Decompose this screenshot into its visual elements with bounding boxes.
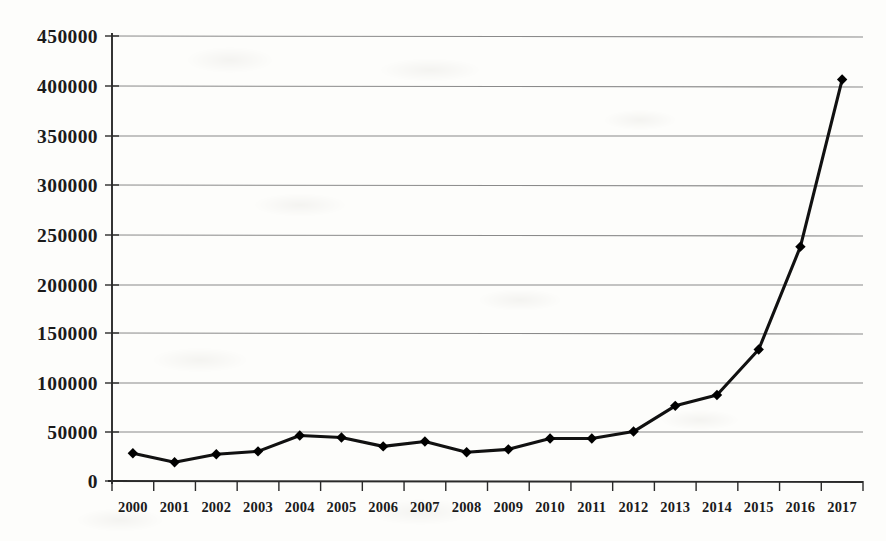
y-tick-label-150000: 150000 bbox=[37, 323, 98, 344]
y-tick-label-100000: 100000 bbox=[37, 373, 98, 394]
data-point-2008 bbox=[461, 447, 471, 457]
gridline-400000 bbox=[112, 86, 863, 87]
gridline-300000 bbox=[112, 185, 863, 186]
chart-page: 450000 400000 350000 300000 250000 20000… bbox=[0, 0, 886, 541]
data-point-2009 bbox=[503, 444, 513, 454]
y-tick-label-450000: 450000 bbox=[37, 26, 98, 47]
y-tick-label-350000: 350000 bbox=[37, 126, 98, 147]
data-point-2006 bbox=[378, 441, 388, 451]
x-tick-label-2008: 2008 bbox=[452, 499, 482, 515]
x-tick-label-2009: 2009 bbox=[493, 499, 523, 515]
x-tick-label-2004: 2004 bbox=[285, 499, 315, 515]
y-tick-label-0: 0 bbox=[88, 471, 98, 492]
x-tick-label-2000: 2000 bbox=[118, 499, 148, 515]
data-point-2017 bbox=[837, 74, 847, 84]
x-tick-label-2011: 2011 bbox=[577, 499, 606, 515]
y-tick-label-200000: 200000 bbox=[37, 275, 98, 296]
x-axis-tick-labels: 2000200120022003200420052006200720082009… bbox=[118, 499, 857, 515]
x-tick-label-2015: 2015 bbox=[744, 499, 774, 515]
x-tick-label-2016: 2016 bbox=[786, 499, 816, 515]
y-tick-label-300000: 300000 bbox=[37, 175, 98, 196]
data-point-2011 bbox=[587, 433, 597, 443]
x-tick-label-2007: 2007 bbox=[410, 499, 440, 515]
data-point-2000 bbox=[128, 448, 138, 458]
data-point-2001 bbox=[169, 457, 179, 467]
x-tick-label-2005: 2005 bbox=[327, 499, 357, 515]
axes bbox=[108, 33, 863, 484]
y-axis-tick-labels: 450000 400000 350000 300000 250000 20000… bbox=[37, 26, 98, 492]
y-tick-label-400000: 400000 bbox=[37, 76, 98, 97]
data-point-2010 bbox=[545, 433, 555, 443]
data-point-2007 bbox=[420, 436, 430, 446]
data-point-markers bbox=[128, 74, 848, 467]
data-line-series-1 bbox=[133, 80, 842, 463]
x-tick-label-2013: 2013 bbox=[660, 499, 690, 515]
x-axis-line bbox=[108, 481, 863, 482]
y-tick-label-50000: 50000 bbox=[47, 422, 98, 443]
data-point-2016 bbox=[795, 241, 805, 251]
data-point-2005 bbox=[336, 432, 346, 442]
x-tick-label-2003: 2003 bbox=[243, 499, 273, 515]
y-tick-label-250000: 250000 bbox=[37, 225, 98, 246]
gridline-250000 bbox=[112, 235, 863, 236]
x-tick-label-2017: 2017 bbox=[827, 499, 857, 515]
x-tick-label-2006: 2006 bbox=[368, 499, 398, 515]
x-tick-label-2010: 2010 bbox=[535, 499, 565, 515]
gridlines bbox=[112, 36, 863, 432]
x-tick-label-2014: 2014 bbox=[702, 499, 732, 515]
data-point-2002 bbox=[211, 449, 221, 459]
gridline-450000 bbox=[112, 36, 863, 37]
data-point-2003 bbox=[253, 446, 263, 456]
x-tick-label-2001: 2001 bbox=[160, 499, 190, 515]
gridline-150000 bbox=[112, 333, 863, 334]
line-chart: 450000 400000 350000 300000 250000 20000… bbox=[0, 0, 886, 541]
x-tick-label-2002: 2002 bbox=[201, 499, 231, 515]
x-tick-label-2012: 2012 bbox=[619, 499, 649, 515]
